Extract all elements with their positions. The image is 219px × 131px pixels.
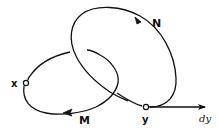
loop-m [24, 50, 119, 116]
dy-vector-label: dy [199, 113, 211, 124]
loop-m-arrow-icon [63, 109, 72, 116]
loop-diagram: x y N M dy [0, 0, 219, 131]
point-x-label: x [11, 78, 18, 89]
point-y-marker [143, 104, 148, 109]
loop-n-arrow-icon [135, 17, 141, 24]
loop-m-label: M [79, 114, 90, 127]
loop-m-lower-arc [24, 50, 119, 114]
loop-n-return-segment [117, 93, 142, 106]
loop-m-upper-arc [28, 52, 70, 80]
point-y-label: y [142, 114, 149, 125]
loop-n-label: N [152, 17, 161, 30]
point-x-marker [23, 80, 28, 85]
